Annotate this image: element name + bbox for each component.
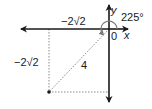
origin-label: 0 [111, 30, 117, 42]
angle-label: 225° [121, 11, 144, 23]
radius-label: 4 [81, 59, 87, 71]
y-component-label: −2√2 [14, 56, 39, 68]
x-component-label: −2√2 [61, 15, 86, 27]
x-axis-label: x [123, 29, 130, 41]
y-axis-label: y [110, 4, 118, 16]
radius-line [49, 29, 109, 92]
polar-diagram: y 225° 0 x −2√2 −2√2 4 [0, 0, 152, 109]
point-marker [47, 90, 51, 94]
